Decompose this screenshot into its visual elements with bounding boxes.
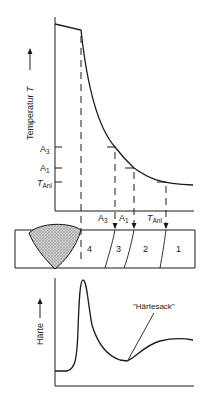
arrow-down-icon	[132, 223, 137, 229]
zone-2-label: 2	[143, 244, 148, 254]
annotation-leader-line	[128, 313, 154, 360]
plate-cross-section: 4 3 2 1	[15, 224, 195, 269]
hardness-chart: Härte "Härtesack"	[35, 278, 194, 386]
temperature-axis-label: Temperatur T	[25, 85, 35, 140]
svg-text:Temperatur T: Temperatur T	[25, 85, 35, 140]
hardness-curve	[55, 280, 193, 371]
arrow-down-icon	[164, 223, 169, 229]
zone-boundaries	[105, 230, 166, 268]
up-arrow-icon	[28, 48, 33, 70]
dashed-projection-lines	[81, 36, 166, 262]
hardness-axis-label: Härte	[35, 323, 45, 345]
zone-1-label: 1	[176, 244, 181, 254]
zone-4-label: 4	[87, 244, 92, 254]
temperature-curve	[55, 24, 193, 185]
svg-text:TAnl: TAnl	[37, 178, 52, 189]
boundary-arrows: A3 A1 TAnl	[98, 213, 169, 229]
svg-text:A1: A1	[40, 163, 50, 174]
temperature-label-text: Temperatur	[25, 94, 35, 140]
level-A3: A3	[40, 144, 115, 155]
zone-3-label: 3	[116, 244, 121, 254]
weld-bead	[29, 224, 81, 269]
svg-text:A3: A3	[40, 144, 50, 155]
level-TAnl: TAnl	[37, 178, 166, 189]
temperature-symbol: T	[25, 85, 35, 92]
up-arrow-icon	[38, 298, 43, 318]
svg-text:A3: A3	[98, 213, 108, 224]
arrow-down-icon	[113, 223, 118, 229]
svg-text:TAnl: TAnl	[147, 213, 162, 224]
svg-text:Härte: Härte	[35, 323, 45, 345]
level-A1: A1	[40, 163, 134, 174]
weld-heat-diagram: Temperatur T A3 A1 TAnl	[0, 0, 206, 399]
svg-text:A1: A1	[119, 213, 129, 224]
haertesack-annotation: "Härtesack"	[133, 302, 175, 311]
